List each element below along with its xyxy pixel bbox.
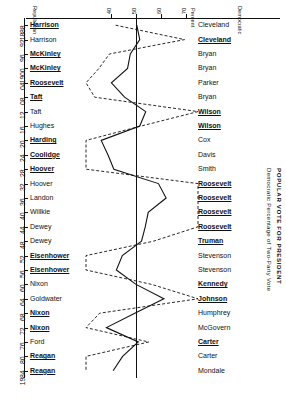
- x-axis-tick: [136, 14, 137, 19]
- candidate-label: Reagan: [30, 367, 55, 375]
- year-tick: [24, 54, 28, 55]
- candidate-label: Bryan: [198, 93, 216, 101]
- candidate-label: Roosevelt: [30, 79, 63, 87]
- candidate-label: Goldwater: [30, 295, 62, 303]
- series-lines: [86, 18, 198, 378]
- candidate-label: Cleveland: [198, 21, 229, 29]
- year-tick: [24, 40, 28, 41]
- candidate-label: Kennedy: [198, 280, 228, 288]
- chart-title: POPULAR VOTE FOR PRESIDENT: [276, 168, 282, 284]
- year-tick: [24, 241, 28, 242]
- candidate-label: Roosevelt: [198, 223, 231, 231]
- candidate-label: Landon: [30, 194, 53, 202]
- candidate-label: Dewey: [30, 223, 51, 231]
- candidate-label: Willkie: [30, 208, 50, 216]
- candidate-label: Nixon: [30, 309, 49, 317]
- candidate-label: Roosevelt: [198, 180, 231, 188]
- candidate-label: Bryan: [198, 64, 216, 72]
- candidate-label: Eisenhower: [30, 266, 69, 274]
- candidate-label: Nixon: [30, 324, 49, 332]
- x-axis-tick-label: 50: [131, 8, 137, 15]
- candidate-label: Eisenhower: [30, 252, 69, 260]
- candidate-label: Taft: [30, 108, 41, 116]
- header-democratic: Democratic: [237, 6, 243, 34]
- candidate-label: Mondale: [198, 367, 225, 375]
- candidate-label: Coolidge: [30, 151, 60, 159]
- year-tick: [24, 169, 28, 170]
- x-axis-tick-label: 60: [156, 8, 162, 15]
- year-tick: [24, 328, 28, 329]
- candidate-label: Davis: [198, 151, 216, 159]
- year-tick: [24, 256, 28, 257]
- year-tick: [24, 313, 28, 314]
- candidate-label: Carter: [198, 352, 217, 360]
- year-tick: [24, 284, 28, 285]
- series-solid: [101, 25, 166, 371]
- candidate-label: Hoover: [30, 165, 54, 173]
- candidate-label: McKinley: [30, 50, 61, 58]
- candidate-label: Bryan: [198, 50, 216, 58]
- year-tick: [24, 299, 28, 300]
- year-tick: [24, 155, 28, 156]
- series-dashed: [86, 25, 198, 371]
- candidate-label: Roosevelt: [198, 194, 231, 202]
- x-axis-tick: [111, 14, 112, 19]
- candidate-label: Cox: [198, 136, 210, 144]
- chart-figure: 1888929619000408121620242832364044485256…: [0, 0, 286, 407]
- candidate-label: McGovern: [198, 324, 230, 332]
- year-tick: [24, 184, 28, 185]
- candidate-label: Wilson: [198, 122, 221, 130]
- candidate-label: Harding: [30, 136, 56, 144]
- candidate-label: Smith: [198, 165, 216, 173]
- year-tick: [24, 212, 28, 213]
- x-axis-tick: [186, 14, 187, 19]
- x-axis-tick-label: 40: [106, 8, 112, 15]
- plot-area: 40506070: [86, 18, 198, 378]
- candidate-label: Hoover: [30, 180, 53, 188]
- candidate-label: Roosevelt: [198, 208, 231, 216]
- year-tick: [24, 270, 28, 271]
- candidate-label: Wilson: [198, 108, 221, 116]
- candidate-label: Harrison: [30, 36, 56, 44]
- year-tick: [24, 198, 28, 199]
- year-axis: 1888929619000408121620242832364044485256…: [0, 18, 26, 378]
- candidate-label: Nixon: [30, 280, 48, 288]
- candidate-label: Dewey: [30, 237, 51, 245]
- candidate-label: Taft: [30, 93, 42, 101]
- year-tick: [24, 83, 28, 84]
- year-tick: [24, 68, 28, 69]
- candidate-label: Reagan: [30, 352, 55, 360]
- year-tick: [24, 140, 28, 141]
- year-tick: [24, 356, 28, 357]
- header-percent: Percent: [190, 8, 196, 27]
- axis-caption: Democratic Percentage of Two-Party Vote: [266, 168, 272, 291]
- year-tick: [24, 25, 28, 26]
- candidate-label: Carter: [198, 338, 219, 346]
- x-axis-tick-label: 70: [181, 8, 187, 15]
- year-tick: [24, 371, 28, 372]
- candidate-label: Stevenson: [198, 252, 231, 260]
- year-tick: [24, 227, 28, 228]
- year-tick: [24, 126, 28, 127]
- year-tick: [24, 342, 28, 343]
- year-tick: [24, 97, 28, 98]
- candidate-label: Cleveland: [198, 36, 231, 44]
- candidate-label: Ford: [30, 338, 44, 346]
- candidate-label: Humphrey: [198, 309, 230, 317]
- year-tick: [24, 112, 28, 113]
- candidate-label: McKinley: [30, 64, 61, 72]
- candidate-label: Parker: [198, 79, 219, 87]
- candidate-label: Hughes: [30, 122, 54, 130]
- header-republican: Republican: [32, 6, 38, 34]
- candidate-label: Johnson: [198, 295, 227, 303]
- x-axis-tick: [161, 14, 162, 19]
- candidate-label: Stevenson: [198, 266, 231, 274]
- candidate-label: Truman: [198, 237, 223, 245]
